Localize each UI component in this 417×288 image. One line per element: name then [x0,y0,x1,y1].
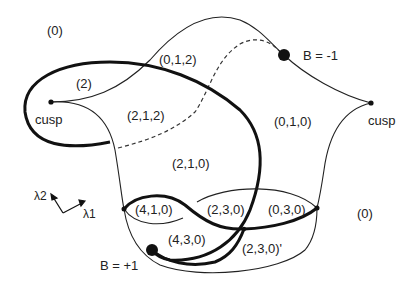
region-210-label: (2,1,0) [172,156,210,171]
bifurcation-diagram: (0) (0,1,2) (2) (2,1,2) (0,1,0) (2,1,0) … [0,0,417,288]
region-outer-right-label: (0) [357,206,373,221]
lambda2-label: λ2 [34,189,47,203]
outer-bottom-curve [124,208,317,273]
right-node-dot [315,206,320,211]
b-minus-dot [278,49,290,61]
region-230-label: (2,3,0) [207,202,245,217]
region-outer-left-label: (0) [47,23,63,38]
right-fold-curve [317,103,371,208]
b-minus-label: B = -1 [303,48,338,63]
region-212-label: (2,1,2) [127,108,165,123]
region-010-label: (0,1,0) [274,114,312,129]
region-430-label: (4,3,0) [168,232,206,247]
b-plus-label: B = +1 [100,258,138,273]
lambda-axes-icon [51,194,85,213]
region-030-label: (0,3,0) [268,202,306,217]
b-plus-dot [146,244,158,256]
region-410-label: (4,1,0) [135,202,173,217]
lambda1-label: λ1 [83,207,96,221]
cusp-right-dot [368,100,373,105]
cusp-left-label: cusp [35,112,62,127]
cusp-left-dot [48,99,53,104]
crossing-dot [242,227,246,231]
region-2-label: (2) [76,76,92,91]
thick-loop-curve [25,62,260,260]
region-012-label: (0,1,2) [159,52,197,67]
cusp-right-label: cusp [368,113,395,128]
left-node-dot [122,207,127,212]
region-230p-label: (2,3,0)' [242,241,282,256]
